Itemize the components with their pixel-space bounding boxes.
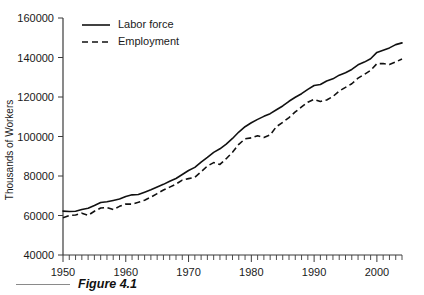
x-tick-label: 1980 [239, 266, 263, 278]
chart-legend: Labor force Employment [82, 18, 179, 47]
y-axis-title: Thousands of Workers [4, 100, 15, 200]
figure-container: 400006000080000100000120000140000160000 … [0, 0, 424, 295]
x-tick-label: 1990 [302, 266, 326, 278]
series-line-labor-force [63, 43, 402, 212]
y-tick-label: 60000 [23, 210, 54, 222]
chart-series [63, 43, 402, 218]
y-tick-label: 120000 [17, 91, 54, 103]
y-tick-label: 100000 [17, 131, 54, 143]
y-tick-label: 80000 [23, 170, 54, 182]
y-tick-label: 40000 [23, 249, 54, 261]
line-chart: 400006000080000100000120000140000160000 … [0, 0, 424, 295]
legend-label-employment: Employment [118, 35, 179, 47]
y-tick-label: 160000 [17, 12, 54, 24]
x-axis-ticks [63, 255, 402, 262]
x-tick-label: 2000 [365, 266, 389, 278]
y-axis-ticks [58, 18, 63, 255]
legend-label-labor-force: Labor force [118, 18, 174, 30]
chart-axes [63, 18, 402, 255]
caption-rule [16, 284, 70, 285]
y-tick-label: 140000 [17, 52, 54, 64]
caption-label: Figure 4.1 [70, 277, 137, 291]
y-axis-tick-labels: 400006000080000100000120000140000160000 [17, 12, 54, 261]
x-tick-label: 1970 [176, 266, 200, 278]
figure-caption: Figure 4.1 [16, 277, 137, 291]
